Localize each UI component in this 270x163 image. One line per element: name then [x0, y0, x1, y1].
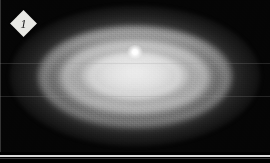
separator-line-secondary [0, 158, 270, 159]
panel-number-badge: 1 [10, 10, 37, 37]
left-edge-border [0, 0, 1, 152]
astronomical-image: 1 [0, 0, 270, 152]
inner-ring [90, 54, 180, 98]
bottom-strip [0, 152, 270, 163]
figure-panel: 1 [0, 0, 270, 163]
panel-number-label: 1 [14, 14, 33, 33]
separator-line [0, 155, 270, 157]
nucleus [127, 45, 143, 59]
